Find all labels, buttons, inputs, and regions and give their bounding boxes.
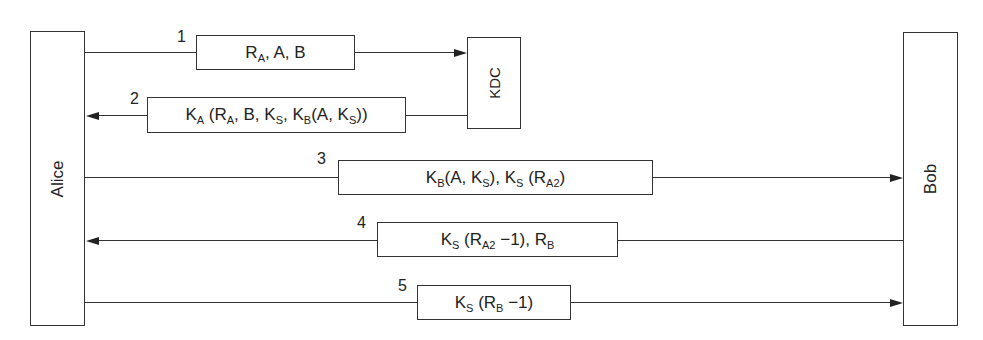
- msg3-box: KB(A, KS), KS (RA2): [338, 160, 653, 195]
- alice-label: Alice: [48, 160, 68, 197]
- bob-label: Bob: [921, 164, 941, 194]
- msg3-text: KB(A, KS), KS (RA2): [426, 168, 565, 188]
- msg4-arrowhead-icon: [86, 237, 99, 245]
- msg3-number: 3: [317, 150, 326, 168]
- msg2-number: 2: [130, 90, 139, 108]
- bob-box: Bob: [903, 32, 958, 326]
- kdc-label: KDC: [486, 67, 503, 99]
- kdc-box: KDC: [467, 37, 521, 129]
- msg2-text: KA (RA, B, KS, KB(A, KS)): [185, 105, 367, 125]
- msg3-arrowhead-icon: [890, 174, 903, 182]
- msg4-number: 4: [357, 214, 366, 232]
- msg4-box: KS (RA2 −1), RB: [377, 222, 618, 257]
- msg2-arrowhead-icon: [86, 112, 99, 120]
- alice-box: Alice: [30, 31, 85, 326]
- msg5-arrowhead-icon: [890, 299, 903, 307]
- msg1-number: 1: [177, 28, 186, 46]
- msg5-box: KS (RB −1): [417, 285, 571, 320]
- msg2-box: KA (RA, B, KS, KB(A, KS)): [147, 97, 406, 133]
- msg1-arrowhead-icon: [454, 49, 467, 57]
- msg5-text: KS (RB −1): [455, 293, 533, 313]
- msg1-box: RA, A, B: [196, 35, 355, 70]
- msg4-text: KS (RA2 −1), RB: [441, 230, 555, 250]
- msg5-number: 5: [398, 277, 407, 295]
- msg1-text: RA, A, B: [245, 43, 305, 63]
